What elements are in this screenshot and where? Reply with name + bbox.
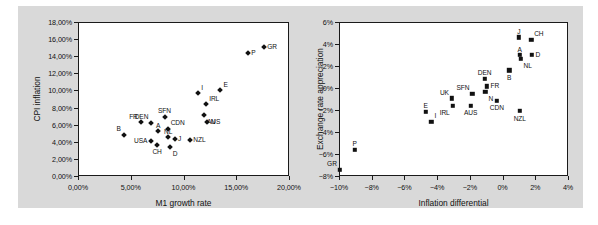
data-point-gr [338,168,342,172]
data-point-den [482,76,486,80]
data-point-e [423,109,427,113]
data-point-label-uk: UK [440,89,449,96]
x-axis-tick [404,176,405,180]
data-point-sfn [470,91,474,95]
data-point-label-a: A [518,46,522,53]
data-point-label-den: DEN [478,69,492,76]
y-axis-tick-label: 12,00% [48,69,72,78]
x-axis-tick [535,176,536,180]
data-point-label-aus: AUS [464,109,477,116]
y-axis-tick [74,56,78,57]
data-point-label-a: A [156,122,160,129]
y-axis-tick-label: 10,00% [48,86,72,95]
x-axis-tick [131,176,132,180]
y-axis-tick [74,108,78,109]
y-axis-tick-label: 6,00% [52,120,72,129]
x-axis-tick [184,176,185,180]
data-point-label-nzl: NZL [193,136,205,143]
data-point-label-e: E [424,102,428,109]
data-point-label-nl: NL [524,62,532,69]
x-axis-tick-label: −2% [463,183,477,192]
y-axis-tick [74,159,78,160]
x-axis-tick [568,176,569,180]
data-point-n [483,90,487,94]
x-axis-tick [470,176,471,180]
data-point-label-p: P [251,49,255,56]
x-axis-tick-label: −10% [330,183,348,192]
y-axis-tick [335,22,339,23]
y-axis-tick [74,90,78,91]
y-axis-tick-label: 4,00% [52,137,72,146]
data-point-i [429,119,433,123]
y-axis-tick [74,125,78,126]
x-axis-tick-label: 2% [530,183,540,192]
data-point-label-irl: IRL [209,95,219,102]
x-axis-tick-label: 5,00% [121,183,141,192]
y-axis-tick-label: 6% [323,18,333,27]
data-point-ch [529,37,533,41]
figure-panel: 0,00%2,00%4,00%6,00%8,00%10,00%12,00%14,… [18,6,583,208]
x-axis-tick-label: −6% [397,183,411,192]
data-point-d [530,53,534,57]
x-axis-tick-label: 20,00% [277,183,301,192]
data-point-fr [485,84,489,88]
data-point-label-nl: NL [164,128,172,135]
chart-inflation-differential-vs-exchange-rate-appreciation: −8%−6%−4%−2%0%2%4%6%−10%−8%−6%−4%−2%0%2%… [303,6,583,208]
y-axis-tick [335,44,339,45]
y-axis-tick [335,132,339,133]
x-axis-tick-label: 10,00% [172,183,196,192]
x-axis-tick [372,176,373,180]
figure-container: 0,00%2,00%4,00%6,00%8,00%10,00%12,00%14,… [0,0,598,225]
y-axis-tick [74,22,78,23]
y-axis-tick [74,73,78,74]
data-point-label-cdn: CDN [490,104,504,111]
y-axis-tick [74,39,78,40]
data-point-label-p: P [352,140,356,147]
data-point-label-fr: FR [491,82,500,89]
x-axis-title: Inflation differential [418,198,488,208]
x-axis-tick-label: −4% [430,183,444,192]
y-axis-tick-label: 8,00% [52,103,72,112]
y-axis-tick [335,66,339,67]
y-axis-tick [335,154,339,155]
y-axis-tick-label: −6% [319,150,333,159]
y-axis-tick-label: 2,00% [52,154,72,163]
data-point-label-gr: GR [267,43,277,50]
y-axis-tick-label: 14,00% [48,52,72,61]
chart-m1-growth-vs-cpi-inflation: 0,00%2,00%4,00%6,00%8,00%10,00%12,00%14,… [18,6,303,208]
data-point-cdn [495,98,499,102]
data-point-label-ch: CH [152,148,161,155]
x-axis-tick [78,176,79,180]
data-point-p [352,147,356,151]
y-axis-title: Exchange rate appreciation [315,48,325,150]
data-point-label-n: N [211,118,216,125]
data-point-label-i: I [434,112,436,119]
data-point-label-j: J [178,135,181,142]
data-point-label-d: D [173,150,178,157]
x-axis-tick [503,176,504,180]
x-axis-tick-label: 15,00% [224,183,248,192]
data-point-label-n: N [488,95,493,102]
x-axis-tick [437,176,438,180]
data-point-label-gr: GR [327,160,337,167]
data-point-nl [518,57,522,61]
data-point-label-d: D [536,51,541,58]
data-point-label-nzl: NZL [514,115,526,122]
data-point-label-irl: IRL [440,109,450,116]
x-axis-tick [236,176,237,180]
data-point-label-sfn: SFN [158,107,171,114]
y-axis-tick-label: 18,00% [48,18,72,27]
x-axis-tick-label: 0% [497,183,507,192]
data-point-label-usa: USA [134,137,147,144]
y-axis-tick-label: −8% [319,172,333,181]
data-point-label-i: I [201,84,203,91]
y-axis-tick-label: 0,00% [52,172,72,181]
x-axis-tick [339,176,340,180]
data-point-nzl [518,109,522,113]
data-point-aus [468,103,472,107]
y-axis-tick [74,142,78,143]
x-axis-title: M1 growth rate [156,198,212,208]
data-point-label-cdn: CDN [171,119,185,126]
x-axis-tick [289,176,290,180]
y-axis-tick [335,110,339,111]
